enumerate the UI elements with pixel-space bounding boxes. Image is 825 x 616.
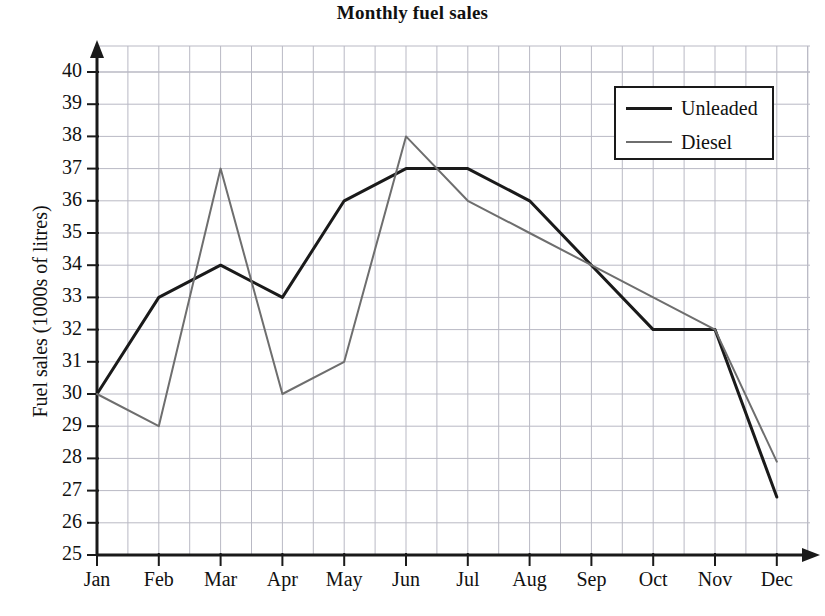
x-tick-label: Jun [372, 568, 440, 591]
y-tick-label: 31 [38, 349, 82, 372]
chart-legend: UnleadedDiesel [614, 86, 774, 160]
legend-item-diesel[interactable]: Diesel [626, 131, 732, 153]
y-tick-label: 30 [38, 381, 82, 404]
x-tick-label: Oct [619, 568, 687, 591]
y-tick-label: 40 [38, 59, 82, 82]
legend-label: Diesel [681, 131, 732, 154]
y-tick-label: 33 [38, 284, 82, 307]
y-tick-label: 38 [38, 123, 82, 146]
x-tick-label: May [310, 568, 378, 591]
y-tick-label: 36 [38, 188, 82, 211]
y-axis-arrow [90, 40, 104, 58]
x-tick-label: Sep [557, 568, 625, 591]
x-tick-label: Feb [125, 568, 193, 591]
y-tick-label: 34 [38, 252, 82, 275]
y-tick-label: 32 [38, 317, 82, 340]
legend-line-swatch [626, 107, 672, 110]
y-tick-label: 27 [38, 478, 82, 501]
legend-item-unleaded[interactable]: Unleaded [626, 97, 758, 119]
legend-line-swatch [626, 141, 672, 143]
y-tick-label: 35 [38, 220, 82, 243]
y-tick-label: 39 [38, 91, 82, 114]
x-tick-label: Nov [681, 568, 749, 591]
y-tick-label: 29 [38, 413, 82, 436]
x-axis-arrow [802, 548, 820, 562]
chart-container: Monthly fuel sales Fuel sales (1000s of … [0, 0, 825, 616]
x-tick-label: Jan [63, 568, 131, 591]
y-tick-label: 37 [38, 156, 82, 179]
x-tick-label: Jul [434, 568, 502, 591]
x-tick-label: Aug [496, 568, 564, 591]
x-tick-label: Apr [248, 568, 316, 591]
y-tick-label: 26 [38, 510, 82, 533]
x-tick-label: Dec [743, 568, 811, 591]
legend-label: Unleaded [681, 97, 758, 120]
y-tick-label: 28 [38, 445, 82, 468]
x-tick-label: Mar [187, 568, 255, 591]
y-tick-label: 25 [38, 542, 82, 565]
